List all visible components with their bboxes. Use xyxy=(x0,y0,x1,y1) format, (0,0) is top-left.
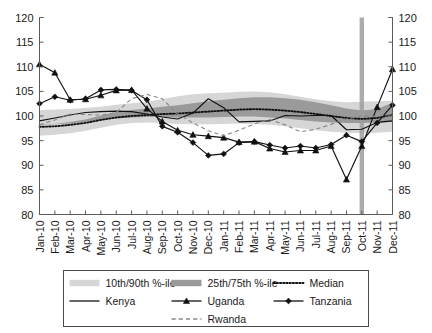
y-tick-label-right: 80 xyxy=(399,209,411,221)
y-tick-label-left: 115 xyxy=(16,36,34,48)
y-tick-label-left: 110 xyxy=(16,61,34,73)
x-tick-label: Nov-10 xyxy=(187,220,199,254)
chart-figure: 8080858590909595100100105105110110115115… xyxy=(0,0,432,333)
index-line-chart: 8080858590909595100100105105110110115115… xyxy=(0,0,432,333)
y-tick-label-left: 90 xyxy=(21,159,33,171)
x-tick-label: Aug-11 xyxy=(325,220,337,253)
x-tick-label: Apr-10 xyxy=(80,220,92,252)
y-tick-label-right: 90 xyxy=(399,159,411,171)
x-tick-label: Mar-10 xyxy=(64,220,76,253)
y-tick-label-right: 85 xyxy=(399,184,411,196)
y-tick-label-left: 100 xyxy=(15,110,33,122)
x-tick-label: May-11 xyxy=(279,220,291,254)
x-tick-label: Feb-10 xyxy=(49,220,61,253)
y-tick-label-right: 120 xyxy=(399,12,417,24)
x-tick-label: Jan-10 xyxy=(34,220,46,252)
x-tick-label: Feb-11 xyxy=(233,220,245,253)
legend-swatch-band-dark xyxy=(172,280,202,286)
x-tick-label: Aug-10 xyxy=(141,220,153,254)
legend-swatch-band-light xyxy=(70,280,100,286)
legend-label: Kenya xyxy=(106,295,136,307)
y-tick-label-left: 80 xyxy=(21,209,33,221)
y-tick-label-right: 100 xyxy=(399,110,417,122)
x-tick-label: Jun-10 xyxy=(110,220,122,252)
x-tick-label: Oct-11 xyxy=(356,220,368,251)
legend-label: Rwanda xyxy=(208,313,247,325)
x-tick-label: Jan-11 xyxy=(218,220,230,251)
x-tick-label: Nov-11 xyxy=(371,220,383,253)
y-tick-label-left: 85 xyxy=(21,184,33,196)
x-tick-label: Jun-11 xyxy=(294,220,306,251)
x-tick-label: May-10 xyxy=(95,220,107,255)
x-tick-label: Jul-10 xyxy=(126,220,138,249)
legend-label: Median xyxy=(310,277,345,289)
y-tick-label-right: 115 xyxy=(399,36,417,48)
legend: 10th/90th %-ile25th/75th %-ileMedianKeny… xyxy=(64,271,369,327)
legend-label: Tanzania xyxy=(310,295,352,307)
x-tick-label: Oct-10 xyxy=(172,220,184,252)
legend-label: 25th/75th %-ile xyxy=(208,277,278,289)
legend-label: Uganda xyxy=(208,295,245,307)
x-tick-label: Mar-11 xyxy=(248,220,260,253)
y-tick-label-right: 110 xyxy=(399,61,417,73)
y-tick-label-left: 95 xyxy=(21,135,33,147)
x-tick-label: Jul-11 xyxy=(310,220,322,248)
legend-label: 10th/90th %-ile xyxy=(106,277,176,289)
x-tick-label: Dec-11 xyxy=(387,220,399,253)
x-tick-label: Dec-10 xyxy=(202,220,214,254)
y-tick-label-left: 120 xyxy=(15,12,33,24)
x-tick-label: Sep-11 xyxy=(340,220,352,253)
y-tick-label-right: 95 xyxy=(399,135,411,147)
y-tick-label-left: 105 xyxy=(15,85,33,97)
x-tick-label: Apr-11 xyxy=(264,220,276,251)
y-tick-label-right: 105 xyxy=(399,85,417,97)
x-tick-label: Sep-10 xyxy=(156,220,168,254)
